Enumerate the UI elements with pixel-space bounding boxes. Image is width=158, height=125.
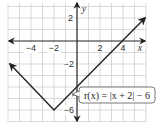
x-tick-label: −4 xyxy=(26,43,36,53)
graph: −4 −2 2 4 x 2 −2 −6 y r(x) = |x + 2| − 6 xyxy=(0,0,158,125)
y-tick-label: 2 xyxy=(68,13,73,23)
y-tick-label: −6 xyxy=(64,105,74,115)
y-tick-label: −2 xyxy=(64,59,74,69)
function-label: r(x) = |x + 2| − 6 xyxy=(84,90,150,102)
y-axis-label: y xyxy=(81,3,87,14)
x-axis-label: x xyxy=(137,42,143,53)
x-tick-label: −2 xyxy=(49,43,59,53)
function-label-callout: r(x) = |x + 2| − 6 xyxy=(72,87,155,103)
x-tick-label: 4 xyxy=(120,43,125,53)
x-tick-label: 2 xyxy=(97,43,102,53)
